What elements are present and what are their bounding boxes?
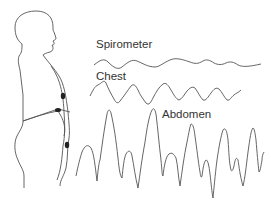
spirometer-label: Spirometer xyxy=(96,39,152,51)
abdomen-label: Abdomen xyxy=(162,109,211,121)
respiratory-diagram: Spirometer Chest Abdomen xyxy=(0,0,271,210)
diagram-canvas xyxy=(0,0,271,210)
abdomen-trace xyxy=(76,109,264,198)
chest-sensor-upper-icon xyxy=(61,93,65,99)
chest-band-sensor-icon xyxy=(55,108,61,112)
spirometer-trace xyxy=(94,59,261,69)
chest-trace xyxy=(90,81,241,104)
human-figure-outline xyxy=(15,11,70,188)
chest-label: Chest xyxy=(96,71,126,83)
sensors xyxy=(55,93,69,148)
abdomen-sensor-icon xyxy=(65,142,69,148)
